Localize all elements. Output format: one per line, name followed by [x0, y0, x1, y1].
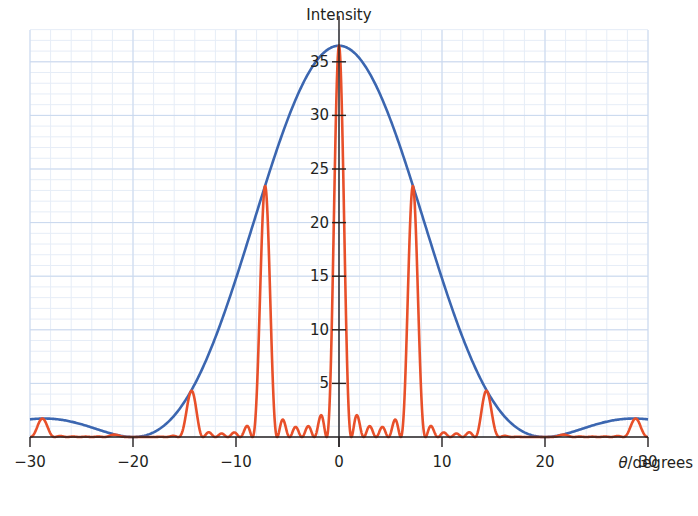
x-axis-title: θ/degrees [618, 454, 693, 472]
y-tick-label: 25 [310, 160, 329, 178]
x-tick-label: 10 [432, 453, 451, 471]
y-tick-label: 10 [310, 321, 329, 339]
y-axis-tick-labels: 5101520253035 [310, 53, 329, 393]
x-tick-label: −30 [14, 453, 46, 471]
x-tick-label: −10 [220, 453, 252, 471]
axes [30, 16, 648, 447]
x-tick-label: 0 [334, 453, 344, 471]
x-tick-label: 20 [535, 453, 554, 471]
y-axis-title: Intensity [306, 6, 371, 24]
x-axis-tick-labels: −30−20−100102030 [14, 453, 657, 471]
y-tick-label: 5 [319, 374, 329, 392]
y-tick-label: 35 [310, 53, 329, 71]
x-tick-label: −20 [117, 453, 149, 471]
y-tick-label: 30 [310, 106, 329, 124]
y-tick-label: 15 [310, 267, 329, 285]
y-tick-label: 20 [310, 214, 329, 232]
diffraction-intensity-chart: −30−20−100102030 5101520253035 Intensity… [0, 0, 698, 516]
